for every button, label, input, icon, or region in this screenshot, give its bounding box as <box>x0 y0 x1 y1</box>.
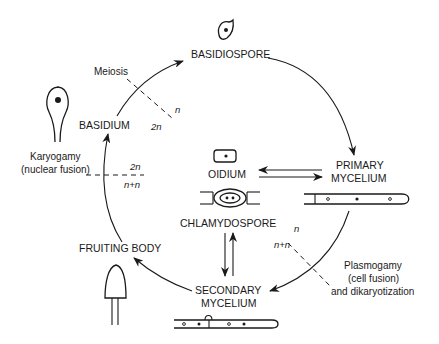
label-primary-mycelium-line2: MYCELIUM <box>331 172 386 184</box>
label-primary-mycelium-line1: PRIMARY <box>336 159 384 171</box>
arrow-fruiting-body-to-basidium <box>104 134 122 242</box>
primary-mycelium-hypha-icon <box>304 194 409 204</box>
arrow-secondary-mycelium-to-fruiting-body <box>134 258 192 291</box>
fruiting-body-icon <box>105 265 126 325</box>
basidium-icon <box>47 87 68 142</box>
label-karyogamy-line1: Karyogamy <box>30 151 81 162</box>
ploidy-meiosis-after: n <box>175 104 180 115</box>
label-plasmogamy-line2: (cell fusion) <box>348 273 399 284</box>
ploidy-karyogamy-before: n+n <box>124 179 140 190</box>
label-basidiospore: BASIDIOSPORE <box>191 48 270 60</box>
life-cycle-diagram: BASIDIOSPORE PRIMARY MYCELIUM SECONDARY … <box>0 0 439 344</box>
ploidy-plasmogamy-after: n+n <box>274 239 290 250</box>
arrow-primary-to-secondary-mycelium <box>270 211 349 291</box>
oidium-icon <box>214 150 236 162</box>
label-oidium: OIDIUM <box>208 168 246 180</box>
basidiospore-icon <box>218 20 233 39</box>
label-fruiting-body: FRUITING BODY <box>79 242 161 254</box>
label-plasmogamy-line1: Plasmogamy <box>344 260 402 271</box>
label-secondary-mycelium-line1: SECONDARY <box>195 284 261 296</box>
label-secondary-mycelium-line2: MYCELIUM <box>201 297 256 309</box>
arrow-basidiospore-to-primary-mycelium <box>268 58 354 155</box>
ploidy-meiosis-before: 2n <box>150 121 162 132</box>
meiosis-divider <box>127 79 172 118</box>
ploidy-karyogamy-after: 2n <box>129 161 141 172</box>
label-plasmogamy-line3: and dikaryotization <box>331 286 414 297</box>
label-karyogamy-line2: (nuclear fusion) <box>21 164 90 175</box>
ploidy-plasmogamy-before: n <box>294 223 299 234</box>
label-meiosis: Meiosis <box>94 66 128 77</box>
label-basidium: BASIDIUM <box>79 119 130 131</box>
label-chlamydospore: CHLAMYDOSPORE <box>180 217 276 229</box>
secondary-mycelium-hypha-icon <box>174 316 278 329</box>
chlamydospore-icon <box>200 189 260 207</box>
